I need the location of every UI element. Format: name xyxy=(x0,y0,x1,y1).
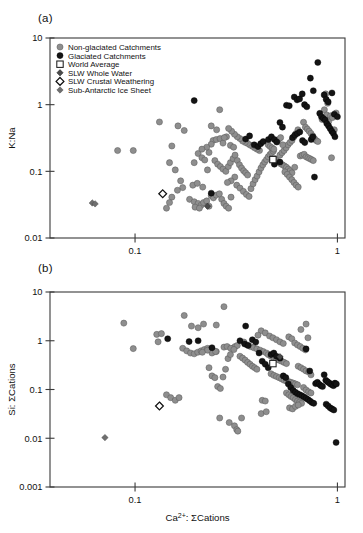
series-world-average xyxy=(270,360,276,366)
series-sub-antarctic-ice-sheet xyxy=(102,434,108,440)
data-point xyxy=(228,194,234,200)
data-point xyxy=(178,178,184,184)
y-tick-label: 0.01 xyxy=(24,233,42,243)
legend-label: Sub-Antarctic Ice Sheet xyxy=(68,86,152,95)
data-point xyxy=(175,123,181,129)
data-point xyxy=(221,304,227,310)
y-tick-label: 0.1 xyxy=(30,167,43,177)
legend-marker-circle-gray-filled xyxy=(57,44,63,50)
data-point xyxy=(295,184,301,190)
series-slw-crustal-weathering xyxy=(156,402,164,410)
data-point xyxy=(130,147,136,153)
series-glaciated-catchments xyxy=(165,323,340,445)
data-point xyxy=(208,123,214,129)
data-point xyxy=(299,91,305,97)
y-tick-label: 0.001 xyxy=(19,482,42,492)
data-point xyxy=(331,407,337,413)
data-point xyxy=(321,372,327,378)
data-point xyxy=(204,167,210,173)
data-point xyxy=(169,143,175,149)
data-point xyxy=(286,103,292,109)
data-point xyxy=(130,346,136,352)
data-point xyxy=(216,191,222,197)
data-point xyxy=(310,134,316,140)
data-point xyxy=(334,114,340,120)
legend-item[interactable]: Sub-Antarctic Ice Sheet xyxy=(57,86,152,95)
data-point xyxy=(298,326,304,332)
data-point xyxy=(310,158,316,164)
data-point xyxy=(304,104,310,110)
y-tick-label: 1 xyxy=(37,100,42,110)
data-point xyxy=(246,193,252,199)
data-point xyxy=(311,400,317,406)
data-point xyxy=(217,415,223,421)
data-point xyxy=(208,190,214,196)
data-point xyxy=(156,402,164,410)
data-point xyxy=(325,99,331,105)
data-point xyxy=(280,142,286,148)
data-point xyxy=(307,368,313,374)
data-point xyxy=(195,338,201,344)
data-point xyxy=(172,167,178,173)
legend-marker-diamond-filled-gray xyxy=(57,87,63,93)
data-point xyxy=(283,375,289,381)
data-point xyxy=(191,160,197,166)
data-point xyxy=(226,125,232,131)
data-point xyxy=(220,374,226,380)
data-point xyxy=(333,439,339,445)
panel-a-chart: 0.110.010.1110K:NaNon-glaciated Catchmen… xyxy=(0,22,363,262)
data-point xyxy=(176,395,182,401)
figure-container: (a) 0.110.010.1110K:NaNon-glaciated Catc… xyxy=(0,0,363,533)
data-point xyxy=(174,187,180,193)
data-point xyxy=(332,134,338,140)
data-point xyxy=(166,160,172,166)
data-point xyxy=(209,345,215,351)
data-point xyxy=(186,339,192,345)
data-point xyxy=(303,321,309,327)
data-point xyxy=(166,200,172,206)
series-slw-crustal-weathering xyxy=(159,190,167,198)
series-non-glaciated-catchments xyxy=(121,304,314,435)
data-point xyxy=(297,129,303,135)
data-point xyxy=(156,119,162,125)
data-point xyxy=(247,133,253,139)
data-point xyxy=(214,127,220,133)
data-point xyxy=(239,415,245,421)
data-point xyxy=(194,180,200,186)
data-point xyxy=(270,360,276,366)
data-point xyxy=(311,174,317,180)
data-point xyxy=(329,90,335,96)
y-tick-label: 0.1 xyxy=(30,385,43,395)
data-point xyxy=(212,375,218,381)
data-point xyxy=(155,339,161,345)
data-point xyxy=(283,361,289,367)
data-point xyxy=(294,382,300,388)
data-point xyxy=(231,144,237,150)
data-point xyxy=(196,205,202,211)
data-point xyxy=(270,156,276,162)
data-point xyxy=(319,383,325,389)
data-point xyxy=(217,385,223,391)
data-point xyxy=(235,428,241,434)
data-point xyxy=(115,147,121,153)
data-point xyxy=(224,179,230,185)
legend-marker-diamond-filled-dark xyxy=(57,70,63,76)
data-point xyxy=(254,366,260,372)
data-point xyxy=(310,88,316,94)
legend-marker-circle-black-filled xyxy=(57,53,63,59)
data-points xyxy=(102,304,340,446)
data-point xyxy=(243,323,249,329)
data-point xyxy=(279,124,285,130)
data-point xyxy=(277,159,283,165)
data-point xyxy=(163,205,169,211)
legend: Non-glaciated CatchmentsGlaciated Catchm… xyxy=(56,43,161,95)
data-point xyxy=(263,409,269,415)
series-world-average xyxy=(270,156,276,162)
data-point xyxy=(102,434,108,440)
x-tick-label: 0.1 xyxy=(129,246,142,256)
data-point xyxy=(307,75,313,81)
plot-frame xyxy=(50,292,345,487)
data-point xyxy=(231,346,237,352)
data-point xyxy=(292,164,298,170)
data-point xyxy=(213,322,219,328)
